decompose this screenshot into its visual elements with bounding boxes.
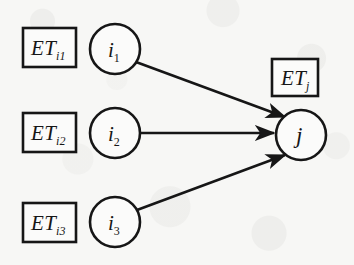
et-box-i1-label: ETi1 (31, 38, 65, 62)
node-base-text: j (296, 123, 302, 148)
et-base-text: ET (281, 66, 306, 90)
et-base-text: ET (31, 211, 56, 235)
node-i1-label: i1 (108, 40, 120, 64)
et-base-text: ET (31, 36, 56, 60)
et-box-i2-label: ETi2 (31, 123, 65, 147)
node-j-label: j (296, 124, 302, 147)
et-subscript-text: i1 (56, 49, 65, 63)
node-i3-label: i3 (108, 213, 120, 237)
edge-i3-to-j (137, 155, 285, 210)
node-subscript-text: 1 (114, 51, 120, 65)
et-box-i3-label: ETi3 (31, 213, 65, 237)
et-subscript-text: i2 (56, 134, 65, 148)
et-subscript-text: j (306, 79, 309, 93)
edge-group (136, 62, 285, 210)
node-subscript-text: 2 (114, 135, 120, 149)
et-base-text: ET (31, 121, 56, 145)
et-box-j-label: ETj (281, 68, 309, 92)
et-subscript-text: i3 (56, 224, 65, 238)
node-subscript-text: 3 (114, 224, 120, 238)
figure-canvas: ETi1 ETi2 ETi3 ETj i1 i2 i3 j (0, 0, 354, 265)
node-i2-label: i2 (108, 124, 120, 148)
edge-i1-to-j (136, 62, 285, 117)
